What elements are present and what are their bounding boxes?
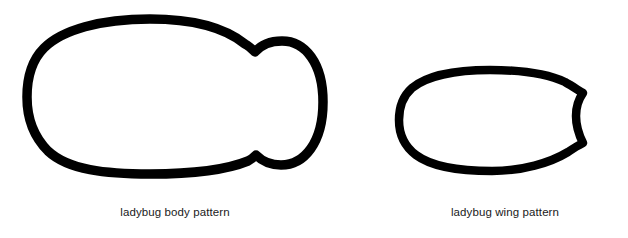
ladybug-body-outline bbox=[27, 19, 323, 174]
ladybug-wing-outline bbox=[399, 70, 583, 171]
pattern-illustration-canvas bbox=[0, 0, 628, 238]
figure-page: ladybug body pattern ladybug wing patter… bbox=[0, 0, 628, 238]
caption-ladybug-body-pattern: ladybug body pattern bbox=[0, 205, 350, 219]
caption-ladybug-wing-pattern: ladybug wing pattern bbox=[382, 205, 628, 219]
